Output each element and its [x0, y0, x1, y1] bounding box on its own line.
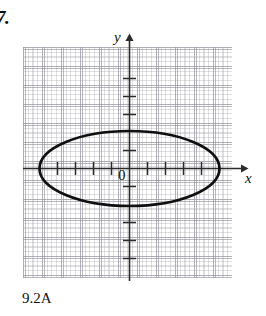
- figure-caption: 9.2A: [22, 291, 52, 306]
- origin-label: 0: [118, 168, 126, 183]
- y-axis-label: y: [114, 30, 121, 45]
- x-axis-label: x: [245, 171, 252, 186]
- exercise-figure: 7.: [0, 0, 266, 316]
- y-axis-arrowhead: [125, 34, 133, 42]
- coordinate-plot: [0, 0, 266, 316]
